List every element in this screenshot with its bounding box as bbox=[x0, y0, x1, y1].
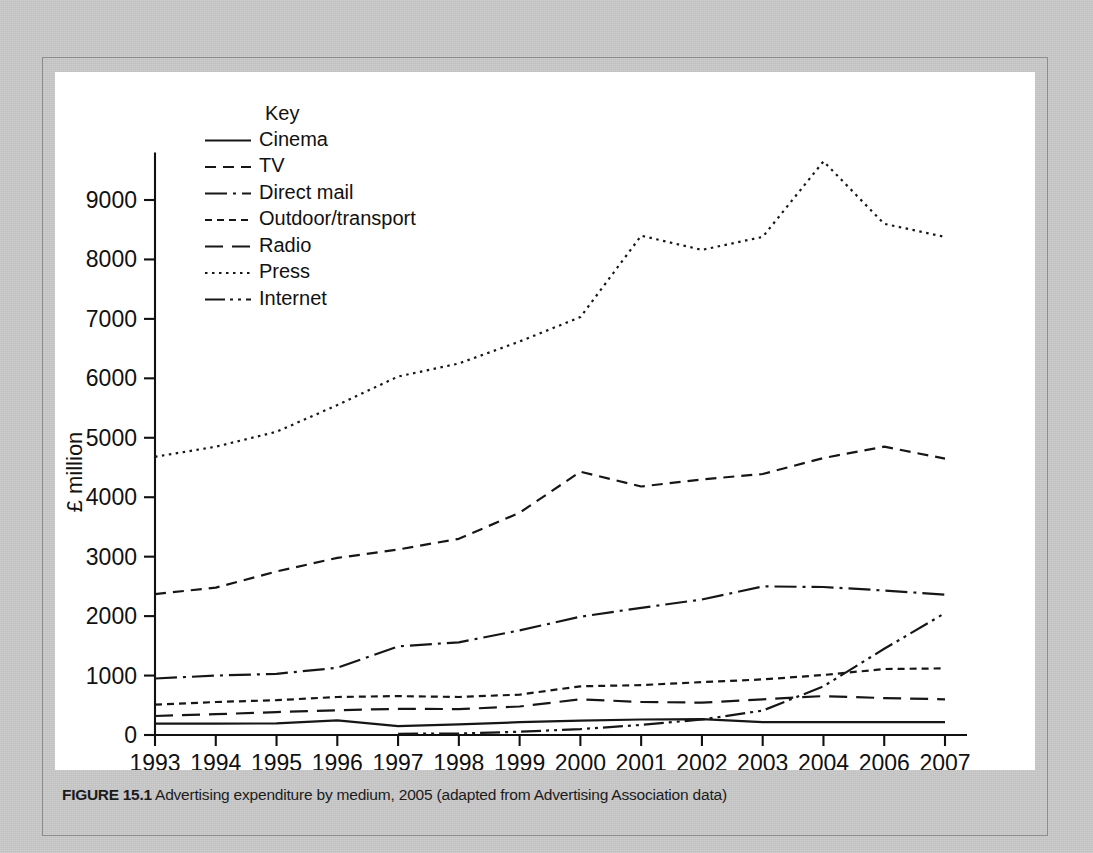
y-tick-label: 6000 bbox=[86, 365, 137, 391]
series-line-internet bbox=[398, 613, 945, 734]
series-line-tv bbox=[155, 447, 945, 594]
chart-legend: KeyCinemaTVDirect mailOutdoor/transportR… bbox=[205, 102, 416, 309]
y-tick-label: 2000 bbox=[86, 603, 137, 629]
x-axis: 1993199419951996199719981999200020012002… bbox=[129, 735, 970, 770]
legend-label-press: Press bbox=[259, 260, 310, 282]
figure-caption-text: Advertising expenditure by medium, 2005 … bbox=[155, 786, 727, 803]
x-tick-label: 2007 bbox=[919, 750, 970, 770]
x-tick-label: 1999 bbox=[494, 750, 545, 770]
y-tick-label: 5000 bbox=[86, 425, 137, 451]
legend-label-cinema: Cinema bbox=[259, 128, 329, 150]
y-tick-label: 3000 bbox=[86, 544, 137, 570]
chart-canvas: 0100020003000400050006000700080009000 19… bbox=[55, 72, 1035, 770]
series-line-radio bbox=[155, 696, 945, 716]
legend-label-tv: TV bbox=[259, 154, 285, 176]
series-line-direct-mail bbox=[155, 586, 945, 678]
line-chart: 0100020003000400050006000700080009000 19… bbox=[55, 72, 1035, 770]
y-tick-label: 4000 bbox=[86, 484, 137, 510]
legend-label-internet: Internet bbox=[259, 287, 327, 309]
y-axis: 0100020003000400050006000700080009000 bbox=[86, 152, 155, 748]
y-tick-label: 7000 bbox=[86, 306, 137, 332]
x-tick-label: 2001 bbox=[616, 750, 667, 770]
y-tick-label: 8000 bbox=[86, 246, 137, 272]
x-tick-label: 2004 bbox=[798, 750, 849, 770]
legend-label-outdoor-transport: Outdoor/transport bbox=[259, 207, 416, 229]
x-tick-label: 2000 bbox=[555, 750, 606, 770]
x-tick-label: 2006 bbox=[859, 750, 910, 770]
y-tick-label: 9000 bbox=[86, 187, 137, 213]
x-tick-label: 1994 bbox=[190, 750, 241, 770]
x-tick-label: 1997 bbox=[372, 750, 423, 770]
x-tick-label: 1993 bbox=[129, 750, 180, 770]
figure-caption-label: FIGURE 15.1 bbox=[62, 786, 152, 803]
x-tick-label: 1998 bbox=[433, 750, 484, 770]
series-line-cinema bbox=[155, 719, 945, 726]
y-axis-title: £ million bbox=[62, 432, 87, 513]
figure-caption: FIGURE 15.1 Advertising expenditure by m… bbox=[62, 786, 1037, 804]
x-tick-label: 2003 bbox=[737, 750, 788, 770]
y-tick-label: 1000 bbox=[86, 663, 137, 689]
figure-page: 0100020003000400050006000700080009000 19… bbox=[0, 0, 1093, 853]
x-tick-label: 1995 bbox=[251, 750, 302, 770]
x-tick-label: 1996 bbox=[312, 750, 363, 770]
legend-label-direct-mail: Direct mail bbox=[259, 181, 353, 203]
legend-title: Key bbox=[265, 102, 299, 124]
series-line-press bbox=[155, 161, 945, 456]
x-tick-label: 2002 bbox=[676, 750, 727, 770]
legend-label-radio: Radio bbox=[259, 234, 311, 256]
y-tick-label: 0 bbox=[124, 722, 137, 748]
